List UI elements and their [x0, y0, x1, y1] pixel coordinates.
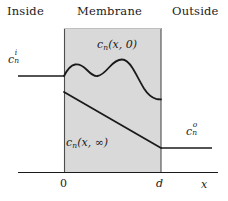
outside-concentration-subscript: n: [192, 128, 197, 137]
diagram-canvas: [0, 0, 228, 201]
x-axis-label: x: [201, 178, 207, 191]
x-axis-tick-d: d: [156, 177, 163, 190]
x-axis-tick-zero: 0: [60, 177, 67, 190]
region-label-inside: Inside: [7, 4, 44, 18]
outside-concentration-scripts: on: [192, 124, 197, 135]
outside-concentration-label: con: [186, 124, 197, 138]
inside-concentration-label: cin: [8, 52, 19, 66]
region-label-outside: Outside: [172, 4, 219, 18]
inside-concentration-subscript: n: [14, 56, 19, 65]
region-label-membrane: Membrane: [77, 4, 142, 18]
membrane-diagram-figure: Inside Membrane Outside cin con cn(x, 0)…: [0, 0, 228, 201]
initial-profile-label: cn(x, 0): [97, 38, 137, 52]
steady-profile-label: cn(x, ∞): [66, 136, 108, 150]
initial-profile-args: (x, 0): [108, 38, 137, 51]
inside-concentration-scripts: in: [14, 52, 19, 63]
steady-profile-args: (x, ∞): [77, 136, 108, 149]
